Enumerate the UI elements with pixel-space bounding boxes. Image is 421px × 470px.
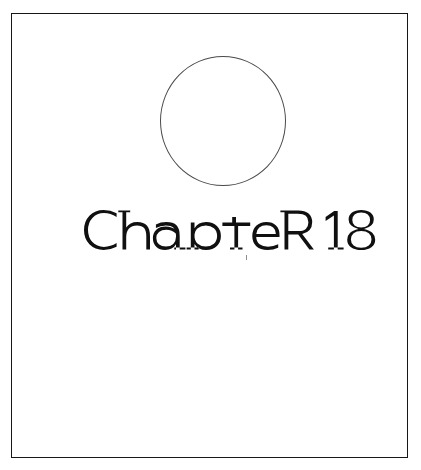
glyph-E — [252, 222, 279, 250]
glyph-A — [153, 222, 186, 250]
chapter-heading-lettering — [84, 210, 375, 250]
glyph-C — [84, 210, 117, 250]
glyph-T — [222, 217, 250, 249]
glyph-R — [280, 210, 314, 249]
glyph-8 — [347, 210, 375, 250]
decorative-circle-ornament — [160, 56, 286, 186]
glyph-P — [187, 222, 221, 250]
scan-speck-artifact — [246, 255, 247, 260]
glyph-1 — [326, 211, 344, 249]
chapter-page: CHAPTER 18 — [0, 0, 421, 470]
glyph-H — [118, 210, 150, 249]
page-border-rule: CHAPTER 18 — [11, 13, 408, 458]
chapter-heading: CHAPTER 18 — [84, 206, 363, 248]
